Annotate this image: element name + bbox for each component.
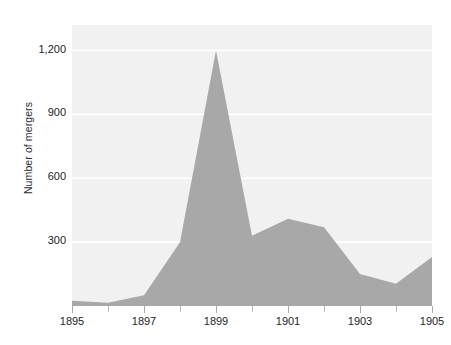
x-tick-label-1903: 1903 bbox=[348, 315, 372, 327]
x-axis-tick-labels: 189518971899190119031905 bbox=[0, 0, 451, 345]
x-tick-label-1905: 1905 bbox=[420, 315, 444, 327]
x-tick-label-1895: 1895 bbox=[60, 315, 84, 327]
x-tick-label-1899: 1899 bbox=[204, 315, 228, 327]
x-tick-label-1897: 1897 bbox=[132, 315, 156, 327]
chart-figure: Number of mergers 3006009001,200 1895189… bbox=[0, 0, 451, 345]
x-tick-label-1901: 1901 bbox=[276, 315, 300, 327]
